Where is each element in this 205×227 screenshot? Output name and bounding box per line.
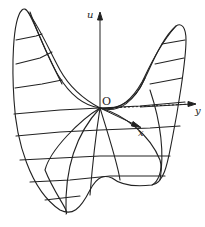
grid-line bbox=[162, 40, 185, 44]
grid-line bbox=[16, 34, 42, 40]
grid-curve bbox=[150, 90, 162, 180]
grid-curve bbox=[66, 108, 100, 212]
grid-line bbox=[155, 58, 184, 64]
surface-right-curve bbox=[100, 108, 161, 185]
grid-line bbox=[20, 156, 170, 160]
grid-line bbox=[16, 126, 180, 136]
saddle-surface-figure bbox=[0, 0, 205, 227]
y-axis-label: y bbox=[195, 106, 201, 116]
grid-line bbox=[150, 78, 182, 84]
surface-ridge-right bbox=[100, 26, 176, 109]
grid-line bbox=[16, 52, 52, 64]
grid-line bbox=[30, 176, 165, 182]
origin-label: O bbox=[102, 96, 111, 107]
grid-line bbox=[15, 80, 62, 88]
u-axis-label: u bbox=[87, 10, 93, 20]
grid-curve bbox=[100, 108, 120, 180]
x-axis-label: x bbox=[138, 128, 144, 138]
surface-front-curve bbox=[45, 108, 100, 214]
surface-ridge-left bbox=[28, 12, 100, 108]
u-axis-arrow bbox=[98, 12, 103, 20]
grid-line bbox=[45, 196, 80, 200]
